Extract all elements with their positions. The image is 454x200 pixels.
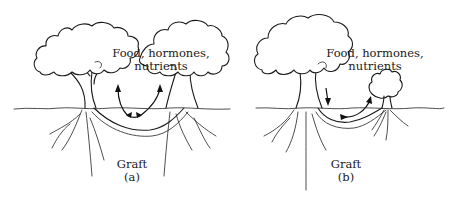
panel-a-letter: (a) (110, 171, 154, 184)
small-tree-roots-b (372, 110, 408, 140)
panel-b-graft-label: Graft (b) (324, 158, 368, 184)
graft-root-a (94, 108, 184, 130)
small-tree-canopy-b (369, 69, 402, 98)
right-roots-a (164, 112, 216, 176)
panel-a-flow-label-line2: nutrients (98, 60, 224, 73)
right-tree-trunk-a (166, 72, 198, 108)
big-tree-roots-b (264, 110, 326, 190)
panel-a-illustration (14, 20, 230, 176)
small-tree-trunk-b (382, 96, 392, 108)
arrow-right-up-a (140, 88, 160, 116)
diagram-artwork (0, 0, 454, 200)
panel-b-flow-label: Food, hormones, nutrients (312, 47, 438, 73)
ground-line-b (256, 108, 444, 109)
root-graft-diagram: Food, hormones, nutrients Graft (a) Food… (0, 0, 454, 200)
panel-a-graft-label: Graft (a) (110, 158, 154, 184)
left-roots-a (50, 110, 104, 176)
panel-b-flow-label-line2: nutrients (312, 60, 438, 73)
left-tree-trunk-a (70, 72, 96, 108)
big-tree-trunk-b (296, 70, 322, 108)
panel-b-letter: (b) (324, 171, 368, 184)
panel-a-flow-label: Food, hormones, nutrients (98, 47, 224, 73)
arrow-left-up-a (118, 88, 128, 116)
